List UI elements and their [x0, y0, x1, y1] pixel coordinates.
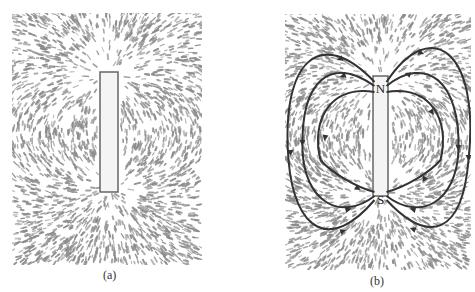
field-lines-diagram-b: NS	[285, 14, 471, 270]
caption-b: (b)	[370, 274, 384, 289]
bar-magnet	[100, 72, 118, 192]
panel-a	[12, 13, 202, 265]
caption-a: (a)	[103, 268, 116, 283]
south-pole-label: S	[377, 192, 384, 207]
north-pole-label: N	[376, 81, 386, 96]
arrow-icon	[404, 70, 412, 78]
panel-b: NS	[285, 14, 471, 270]
iron-filings-pattern-a	[12, 13, 202, 265]
